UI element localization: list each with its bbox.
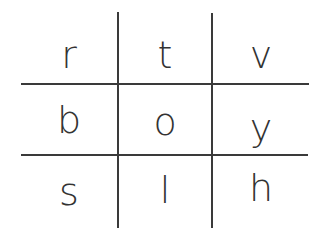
grid-cell: o — [119, 94, 211, 150]
grid-cell: b — [21, 92, 117, 148]
letter-grid: r t v b o y s l h — [0, 0, 321, 243]
grid-cell: v — [213, 30, 309, 80]
grid-cell: h — [213, 160, 309, 216]
grid-cell: s — [21, 164, 117, 220]
grid-cell: y — [213, 100, 309, 156]
grid-cell: r — [21, 30, 117, 80]
grid-horizontal-line-1 — [21, 83, 309, 85]
grid-cell: l — [119, 162, 211, 218]
grid-cell: t — [119, 30, 211, 80]
